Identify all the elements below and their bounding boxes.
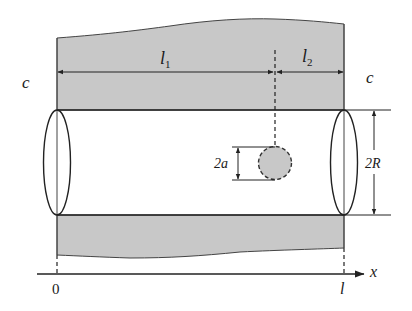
- axis-name-label: x: [369, 263, 377, 280]
- top-shaded-region: [57, 19, 344, 110]
- left-section-label: c: [22, 73, 30, 92]
- spherical-inclusion: [259, 147, 292, 180]
- inclusion-diameter-label: 2a: [214, 156, 228, 171]
- bottom-shaded-region: [57, 215, 344, 258]
- cylinder-diagram: c c l1 l2 2a 2R 0 l x: [0, 0, 412, 311]
- right-section-label: c: [366, 68, 374, 87]
- axis-end-label: l: [340, 280, 345, 297]
- l1-subscript: 1: [165, 58, 171, 70]
- cylinder-diameter-label: 2R: [365, 156, 381, 171]
- axis-origin-label: 0: [52, 281, 60, 297]
- l2-subscript: 2: [307, 56, 313, 68]
